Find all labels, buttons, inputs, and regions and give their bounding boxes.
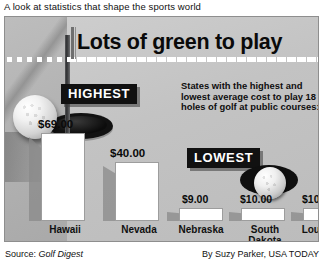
- source-name: Golf Digest: [39, 249, 84, 259]
- bar-nevada: [115, 162, 159, 221]
- chart-panel: Lots of green to play HIGHEST LOWEST Sta…: [4, 16, 319, 242]
- bar-value-label: $10.00: [302, 193, 319, 205]
- source-note: Source: Golf Digest: [5, 249, 83, 259]
- bar-value-label: $40.00: [110, 147, 145, 159]
- kicker-line: A look at statistics that shape the spor…: [4, 1, 201, 12]
- credit-note: By Suzy Parker, USA TODAY: [202, 249, 319, 259]
- bar-nebraska: [179, 208, 223, 221]
- bar-value-label: $69.00: [38, 118, 73, 130]
- bar-value-label: $9.00: [182, 193, 208, 205]
- bar-louisiana: [303, 208, 319, 221]
- source-prefix: Source:: [5, 249, 39, 259]
- bar-south: [241, 208, 285, 221]
- bar-category-label-line2: Dakota: [248, 235, 281, 242]
- bar-category-label: Hawaii: [37, 224, 93, 235]
- infographic-page: A look at statistics that shape the spor…: [0, 0, 324, 266]
- bar-category-label: Nebraska: [173, 224, 229, 235]
- bar-category-label: Louisiana: [297, 224, 319, 235]
- bar-category-label: SouthDakota: [237, 224, 293, 242]
- bar-category-label: Nevada: [111, 224, 167, 235]
- bar-hawaii: [41, 133, 85, 221]
- bar-value-label: $10.00: [240, 193, 272, 205]
- bar-plot: $69.00Hawaii$40.00Nevada$9.00Nebraska$10…: [5, 17, 319, 242]
